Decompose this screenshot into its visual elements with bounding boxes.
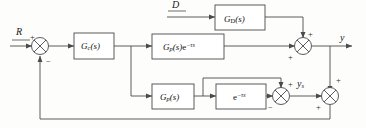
plantdelay-exponent: −τs [186, 42, 195, 48]
block-label-disturbance-transfer: GD(s) [224, 14, 245, 24]
signal-label-reference: R [16, 27, 22, 37]
controller-arg: (s) [90, 41, 100, 51]
plantmodel-arg: (s) [170, 92, 180, 102]
sign-feedback-summer-plus-bottom: + [316, 103, 321, 112]
sign-predictor-summer-plus: + [288, 80, 293, 89]
gd-arg: (s) [235, 14, 245, 24]
sign-predictor-summer-minus: − [268, 103, 273, 112]
block-diagram: Gc(s) GD(s) Gp(s)e−τs Gp(s) e−τs R D y y… [0, 0, 366, 128]
signal-label-predictor-output: ys [297, 79, 304, 90]
signal-label-output: y [340, 33, 344, 43]
block-label-delay-model: e−τs [233, 92, 246, 102]
plantdelay-arg: (s) [173, 42, 183, 52]
diagram-canvas [0, 0, 366, 128]
sign-output-summer-plus-top: + [308, 30, 313, 39]
block-label-plant-with-delay: Gp(s)e−τs [163, 42, 195, 52]
block-label-controller: Gc(s) [81, 41, 100, 51]
sign-error-summer-minus: − [46, 57, 51, 66]
sign-feedback-summer-plus-top: + [336, 76, 341, 85]
signal-label-disturbance: D [172, 0, 179, 10]
delay-exponent: −τs [237, 92, 246, 98]
block-label-plant-model: Gp(s) [160, 92, 179, 102]
sign-output-summer-plus-bottom: + [288, 53, 293, 62]
sign-error-summer-plus: + [30, 33, 35, 42]
ys-sub: s [301, 82, 304, 89]
